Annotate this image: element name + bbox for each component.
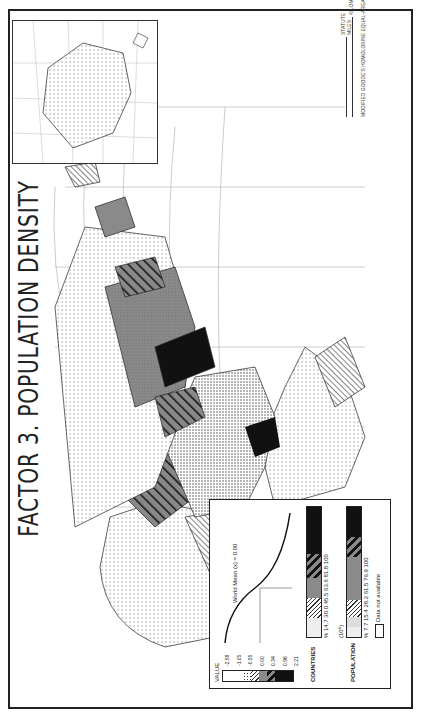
value-swatch-column [222, 670, 294, 682]
scale-bar: STATUTE MILES KILOMETERS MODIFIED GOODE'… [340, 0, 366, 117]
legend-value-label: VALUE [214, 663, 220, 682]
no-data-swatch [375, 624, 384, 638]
value-breaks: -2.58 -1.05 -0.55 0.00 0.34 0.96 2.21 [222, 655, 303, 666]
world-mean-label: World Mean (x) = 0.00 [232, 544, 238, 603]
region-australia [43, 43, 131, 148]
population-bar [346, 506, 362, 638]
population-unit: (10⁶) [338, 625, 344, 638]
scale-km-label: KILOMETERS [348, 0, 354, 15]
no-data-label: Data not available [375, 574, 381, 622]
countries-pct: % 14.7 30.0 45.5 63.6 81.8 100 [323, 554, 329, 638]
scale-miles-label: STATUTE MILES [340, 13, 352, 35]
population-pct: % 7.7 15.4 28.2 61.5 76.9 100 [363, 558, 369, 638]
map-page: FACTOR 3. POPULATION DENSITY [0, 0, 424, 717]
region-new-zealand [133, 33, 148, 48]
region-japan [65, 162, 100, 187]
population-label: POPULATION [350, 643, 356, 682]
countries-label: COUNTRIES [310, 647, 316, 682]
countries-bar [306, 506, 322, 638]
projection-label: MODIFIED GOODE'S HOMOLOSINE EQUAL-AREA P… [360, 0, 366, 117]
australia-inset [12, 20, 158, 164]
legend: VALUE -2.58 -1.05 -0.55 0.00 0.34 0.96 2… [209, 499, 391, 689]
